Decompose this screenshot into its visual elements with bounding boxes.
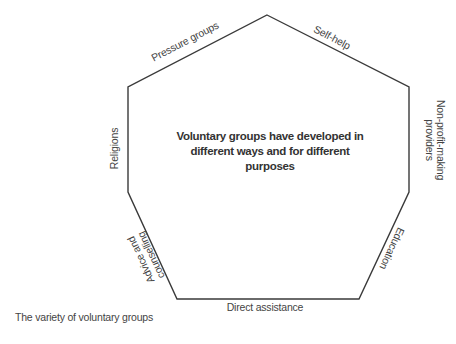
central-statement-line-1: Voluntary groups have developed in <box>170 129 370 144</box>
label-religions-text: Religions <box>108 128 120 169</box>
central-statement: Voluntary groups have developed in diffe… <box>170 129 370 174</box>
label-non-profit-line-2: providers <box>424 90 435 190</box>
label-direct-assistance: Direct assistance <box>215 302 315 313</box>
figure-caption: The variety of voluntary groups <box>15 311 153 323</box>
diagram-canvas: Voluntary groups have developed in diffe… <box>0 0 456 344</box>
label-religions: Religions <box>109 124 120 174</box>
label-non-profit-line-1: Non-profit-making <box>435 90 446 190</box>
label-non-profit-making-providers: Non-profit-making providers <box>422 90 446 190</box>
central-statement-line-2: different ways and for different <box>170 144 370 159</box>
label-direct-assistance-text: Direct assistance <box>227 301 304 313</box>
central-statement-line-3: purposes <box>170 159 370 174</box>
